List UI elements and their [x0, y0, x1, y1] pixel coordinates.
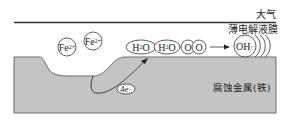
metal-label: 腐蚀金属(铁) [213, 83, 270, 93]
h2o-molecule-1: H2O [128, 40, 154, 54]
o-atom-2: O [192, 40, 206, 54]
fe-ion-2-symbol: Fe [85, 36, 95, 47]
h2o-2-o: O [169, 42, 176, 53]
fe-ion-1-symbol: Fe [59, 42, 69, 53]
fe-ion-1: Fe2+ [58, 40, 76, 54]
h2o-1-h: H [132, 42, 139, 53]
fe-ion-2: Fe2+ [84, 34, 102, 48]
h2o-molecule-2: H2O [155, 40, 179, 54]
h2o-2-h: H [158, 42, 165, 53]
electrons-label: 4e− [117, 82, 135, 96]
electrolyte-film-label: 薄电解液膜 [228, 25, 278, 35]
oh-ripple-3 [265, 35, 270, 57]
hydroxide-ion: OH− [234, 39, 256, 53]
electrons-count: 4e [120, 84, 129, 94]
oh-ripple-2 [260, 35, 265, 57]
atmosphere-label: 大气 [256, 10, 276, 20]
h2o-1-o: O [143, 42, 150, 53]
reaction-arrow-head-icon [224, 45, 230, 50]
diagram-graphics [0, 0, 286, 122]
corrosion-diagram: 大气 薄电解液膜 腐蚀金属(铁) Fe2+ Fe2+ H2O H2O O O O… [0, 0, 286, 122]
hydroxide-symbol: OH [236, 41, 250, 52]
